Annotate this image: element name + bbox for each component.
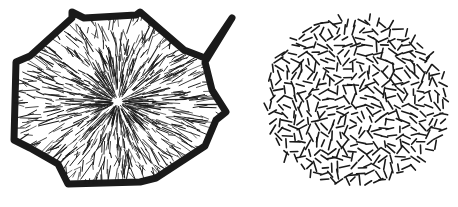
illustration xyxy=(0,0,458,207)
random-needles-panel xyxy=(264,14,448,185)
radial-spherulite-panel xyxy=(8,6,235,202)
figure xyxy=(0,0,458,207)
